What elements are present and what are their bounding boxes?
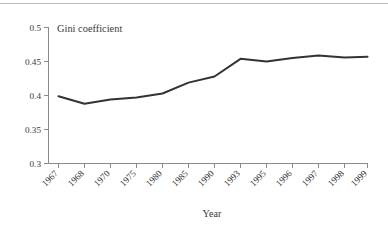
x-tick-label: 1985	[170, 168, 190, 188]
y-tick-label: 0.45	[25, 57, 41, 67]
x-tick-label: 1995	[248, 168, 268, 188]
x-axis-labels: 1967 1968 1970 1975 1980 1985 1990 1993 …	[40, 168, 369, 188]
gini-coefficient-chart: 0.5 0.45 0.4 0.35 0.3 1967 1968 197	[0, 0, 388, 236]
y-tick-marks	[44, 28, 49, 164]
x-tick-label: 1980	[144, 168, 164, 188]
chart-title: Gini coefficient	[57, 23, 122, 34]
x-tick-label: 1975	[118, 168, 138, 188]
y-tick-label: 0.5	[30, 23, 42, 33]
y-axis-labels: 0.5 0.45 0.4 0.35 0.3	[25, 23, 41, 169]
x-tick-label: 1968	[66, 168, 86, 188]
x-tick-label: 1970	[92, 168, 112, 188]
x-tick-marks	[59, 164, 368, 169]
y-tick-label: 0.35	[25, 125, 41, 135]
x-tick-label: 1999	[349, 168, 369, 188]
x-tick-label: 1990	[196, 168, 216, 188]
x-tick-label: 1967	[40, 168, 60, 188]
x-tick-label: 1997	[300, 168, 320, 188]
y-tick-label: 0.4	[30, 91, 42, 101]
x-tick-label: 1998	[326, 168, 346, 188]
y-tick-label: 0.3	[30, 159, 42, 169]
x-tick-label: 1993	[222, 168, 242, 188]
gini-series-line	[59, 55, 368, 103]
x-tick-label: 1996	[274, 168, 294, 188]
x-axis-title: Year	[203, 208, 222, 219]
chart-canvas: 0.5 0.45 0.4 0.35 0.3 1967 1968 197	[0, 0, 388, 236]
